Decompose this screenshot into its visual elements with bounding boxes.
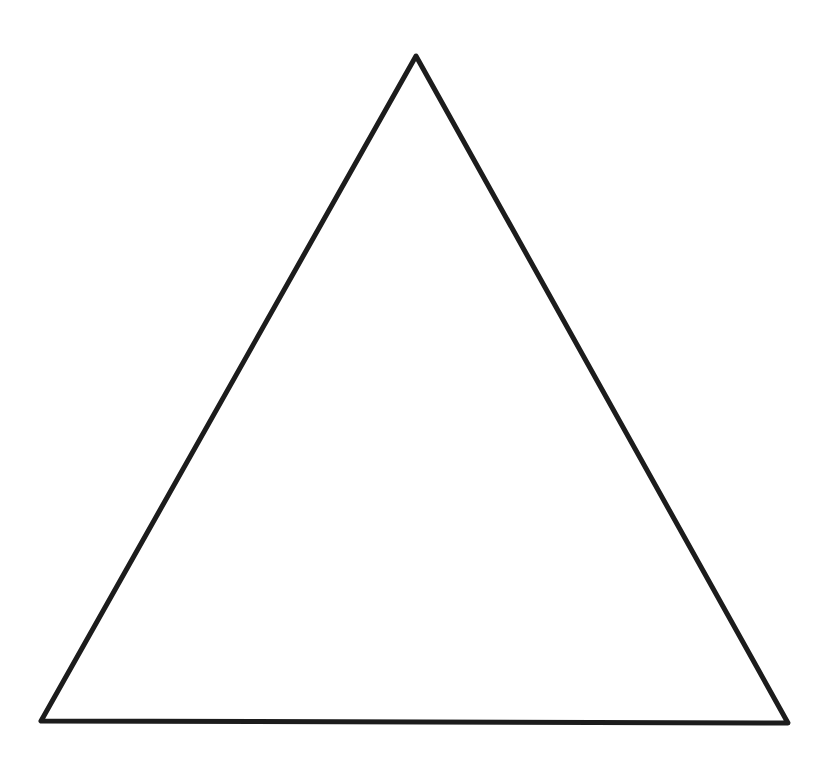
diagram-canvas: [0, 0, 833, 762]
triangle-outline: [41, 56, 788, 723]
